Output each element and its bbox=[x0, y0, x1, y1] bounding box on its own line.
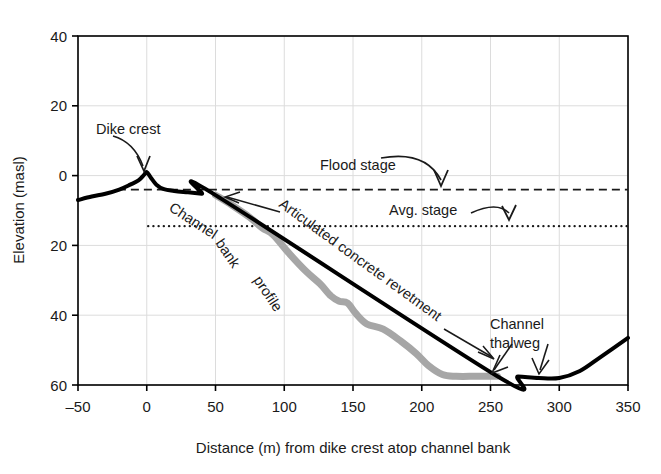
y-tick-label-4: 40 bbox=[50, 307, 67, 324]
y-tick-label-2: 0 bbox=[59, 167, 67, 184]
y-tick-label-5: 60 bbox=[50, 377, 67, 394]
label-flood-stage: Flood stage bbox=[320, 157, 396, 173]
label-channel-thalweg-line-1: Channel bbox=[490, 316, 544, 332]
x-tick-label-3: 100 bbox=[272, 398, 297, 415]
x-tick-label-2: 50 bbox=[207, 398, 224, 415]
x-tick-label-0: –50 bbox=[65, 398, 90, 415]
y-tick-label-3: 20 bbox=[50, 237, 67, 254]
x-tick-label-5: 200 bbox=[409, 398, 434, 415]
chart-figure: 40200204060 –50050100150200250300350 bbox=[0, 0, 661, 474]
label-avg-stage: Avg. stage bbox=[389, 202, 457, 218]
label-channel-thalweg-line-2: thalweg bbox=[490, 335, 540, 351]
x-tick-label-1: 0 bbox=[143, 398, 151, 415]
y-tick-label-0: 40 bbox=[50, 28, 67, 45]
elevation-profile-chart: 40200204060 –50050100150200250300350 bbox=[0, 0, 661, 474]
x-tick-label-8: 350 bbox=[615, 398, 640, 415]
x-tick-label-6: 250 bbox=[478, 398, 503, 415]
label-dike-crest: Dike crest bbox=[96, 121, 160, 137]
x-tick-label-7: 300 bbox=[547, 398, 572, 415]
y-tick-label-1: 20 bbox=[50, 97, 67, 114]
x-axis-title: Distance (m) from dike crest atop channe… bbox=[196, 439, 511, 456]
y-axis-title: Elevation (masl) bbox=[10, 156, 27, 264]
x-tick-label-4: 150 bbox=[340, 398, 365, 415]
